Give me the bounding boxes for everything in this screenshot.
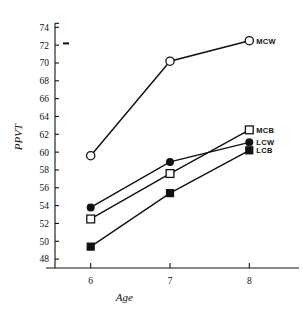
y-tick-label: 70 [40, 58, 50, 68]
x-tick-label: 6 [88, 276, 93, 286]
data-point-lcw-age-6 [87, 204, 94, 211]
y-tick-label: 50 [40, 237, 50, 247]
y-tick-label: 48 [40, 254, 50, 264]
data-point-lcb-age-7 [167, 190, 174, 197]
y-tick-label: 52 [40, 219, 50, 229]
chart-canvas: 4850525456586062646668707274678AgePPVTMC… [0, 0, 303, 311]
data-point-mcb-age-7 [166, 170, 174, 178]
data-point-mcw-age-8 [245, 37, 253, 45]
y-tick-label: 62 [40, 130, 50, 140]
data-point-mcb-age-8 [245, 126, 253, 134]
series-label-mcb: MCB [256, 126, 274, 135]
series-label-lcb: LCB [256, 146, 273, 155]
y-tick-label: 72 [40, 41, 50, 51]
y-tick-label: 64 [40, 112, 50, 122]
x-axis-title: Age [115, 291, 133, 303]
data-point-lcw-age-8 [246, 139, 253, 146]
y-tick-label: 58 [40, 165, 50, 175]
y-tick-label: 56 [40, 183, 50, 193]
data-point-mcw-age-6 [87, 152, 95, 160]
y-axis-title: PPVT [12, 123, 24, 151]
series-label-mcw: MCW [256, 37, 276, 46]
y-tick-label: 68 [40, 76, 50, 86]
data-point-mcw-age-7 [166, 57, 174, 65]
ppvt-by-age-line-chart: 4850525456586062646668707274678AgePPVTMC… [0, 0, 303, 311]
y-tick-label: 54 [40, 201, 50, 211]
y-tick-label: 74 [40, 23, 50, 33]
y-tick-label: 60 [40, 148, 50, 158]
data-point-mcb-age-6 [87, 215, 95, 223]
x-tick-label: 8 [247, 276, 252, 286]
data-point-lcw-age-7 [167, 159, 174, 166]
data-point-lcb-age-6 [87, 243, 94, 250]
x-tick-label: 7 [168, 276, 173, 286]
data-point-lcb-age-8 [246, 147, 253, 154]
y-tick-label: 66 [40, 94, 50, 104]
